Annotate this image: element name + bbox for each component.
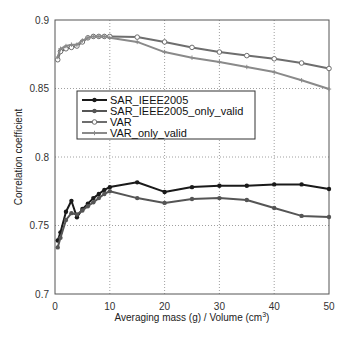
y-tick-label: 0.9: [35, 15, 49, 26]
data-point-marker: [162, 201, 166, 205]
data-point-marker: [217, 50, 222, 55]
data-point-marker: [327, 215, 331, 219]
data-point-marker: [91, 200, 95, 204]
data-point-marker: [327, 66, 332, 71]
x-tick-label: 30: [214, 301, 226, 312]
x-tick-label: 50: [323, 301, 335, 312]
legend-label: VAR_only_valid: [110, 127, 187, 139]
series-lines: [55, 34, 331, 249]
data-point-marker: [272, 56, 277, 61]
data-point-marker: [190, 185, 194, 189]
data-point-marker: [299, 214, 303, 218]
data-point-marker: [190, 45, 195, 50]
series-line: [58, 36, 329, 89]
data-point-marker: [64, 210, 68, 214]
series-line: [58, 36, 329, 68]
y-axis-label: Correlation coefficient: [13, 109, 24, 206]
data-point-marker: [102, 188, 106, 192]
series-var-only-valid: [56, 34, 332, 91]
line-chart: 0.70.750.80.850.9 01020304050 Correlatio…: [0, 0, 348, 342]
y-axis-ticks: 0.70.750.80.850.9: [30, 15, 50, 300]
data-point-marker: [135, 180, 139, 184]
data-point-marker: [245, 53, 250, 58]
data-point-marker: [75, 212, 79, 216]
data-point-marker: [299, 61, 304, 66]
data-point-marker: [217, 196, 221, 200]
data-point-marker: [91, 196, 95, 200]
x-axis-label-close: ): [266, 312, 269, 323]
data-point-marker: [190, 197, 194, 201]
legend: SAR_IEEE2005SAR_IEEE2005_only_validVARVA…: [77, 91, 255, 139]
series-sar-ieee2005: [56, 180, 332, 243]
x-tick-label: 20: [159, 301, 171, 312]
data-point-marker: [86, 204, 90, 208]
series-sar-ieee2005-only-valid: [56, 189, 332, 250]
data-point-marker: [162, 40, 167, 45]
x-axis-ticks: 01020304050: [52, 301, 335, 312]
x-tick-label: 0: [52, 301, 58, 312]
data-point-marker: [97, 192, 101, 196]
legend-marker: [92, 120, 97, 125]
series-var: [55, 34, 331, 71]
x-axis-label: Averaging mass (g) / Volume (cm3): [115, 311, 270, 323]
data-point-marker: [135, 35, 140, 40]
data-point-marker: [102, 192, 106, 196]
data-point-marker: [327, 187, 331, 191]
y-tick-label: 0.75: [30, 220, 50, 231]
y-tick-label: 0.85: [30, 83, 50, 94]
data-point-marker: [217, 184, 221, 188]
legend-marker: [92, 98, 96, 102]
data-point-marker: [58, 236, 62, 240]
data-point-marker: [69, 211, 73, 215]
data-point-marker: [80, 208, 84, 212]
legend-marker: [92, 109, 96, 113]
data-point-marker: [64, 218, 68, 222]
data-point-marker: [108, 185, 112, 189]
data-point-marker: [97, 196, 101, 200]
y-tick-label: 0.8: [35, 152, 49, 163]
data-point-marker: [245, 198, 249, 202]
data-point-marker: [69, 199, 73, 203]
data-point-marker: [272, 206, 276, 210]
data-point-marker: [108, 189, 112, 193]
y-tick-label: 0.7: [35, 289, 49, 300]
x-axis-label-main: Averaging mass (g) / Volume (cm: [115, 312, 263, 323]
data-point-marker: [299, 182, 303, 186]
data-point-marker: [162, 190, 166, 194]
x-tick-label: 40: [269, 301, 281, 312]
data-point-marker: [56, 245, 60, 249]
data-point-marker: [272, 182, 276, 186]
x-tick-label: 10: [104, 301, 116, 312]
data-point-marker: [245, 184, 249, 188]
data-point-marker: [135, 196, 139, 200]
